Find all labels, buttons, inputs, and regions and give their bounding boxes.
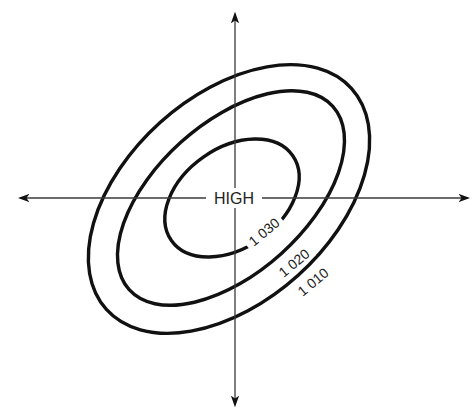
isobar-label-1030: 1 030 (241, 210, 286, 252)
high-pressure-label: HIGH (206, 188, 262, 208)
isobar-diagram: HIGH 1 030 1 020 1 010 (0, 0, 475, 410)
svg-text:HIGH: HIGH (214, 190, 254, 207)
